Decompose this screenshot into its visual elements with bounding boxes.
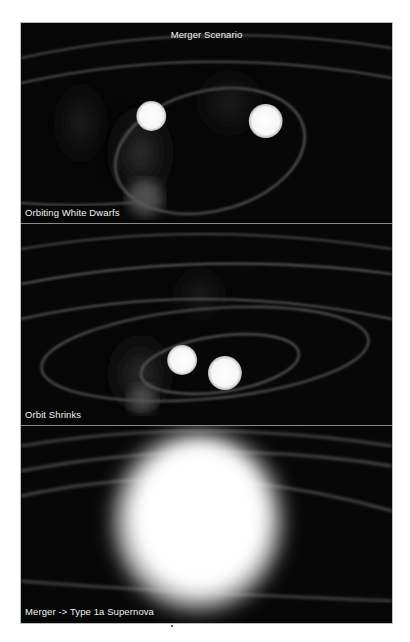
panel-2-illustration — [21, 224, 392, 425]
white-dwarf-2 — [208, 356, 242, 390]
panel-label: Merger -> Type 1a Supernova — [25, 606, 154, 617]
merger-scenario-figure: Merger Scenario Orbiting White Dwarfs — [20, 22, 393, 624]
supernova-core — [138, 446, 261, 586]
figure-title: Merger Scenario — [21, 29, 392, 40]
panel-merger-supernova: Merger -> Type 1a Supernova — [21, 426, 392, 623]
nebula-glow — [128, 385, 156, 413]
spacetime-ripple — [21, 234, 392, 249]
panel-label: Orbiting White Dwarfs — [25, 207, 119, 218]
panel-3-illustration — [21, 426, 392, 623]
nebula-glow — [41, 63, 121, 183]
white-dwarf-2 — [249, 104, 283, 138]
panel-orbiting-white-dwarfs: Merger Scenario Orbiting White Dwarfs — [21, 23, 392, 223]
panel-orbit-shrinks: Orbit Shrinks — [21, 224, 392, 425]
panel-1-illustration — [21, 23, 392, 223]
panel-label: Orbit Shrinks — [25, 409, 81, 420]
white-dwarf-1 — [136, 101, 166, 131]
nebula-glow — [180, 53, 279, 153]
white-dwarf-1 — [167, 345, 197, 375]
stray-mark — [171, 625, 173, 627]
